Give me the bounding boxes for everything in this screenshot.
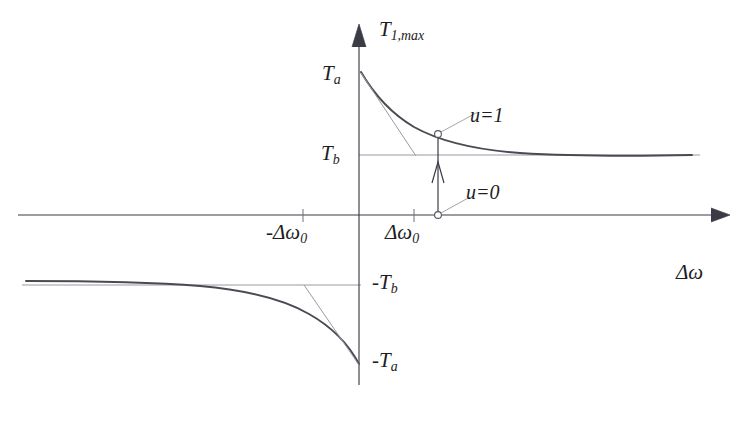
posdw0-base: Δω [385, 220, 412, 244]
x-tick-label-delta-omega-0: Δω0 [385, 222, 419, 246]
posdw0-sub: 0 [412, 231, 419, 246]
y-tick-label-neg-Ta: -Ta [372, 350, 398, 374]
Ta-base: T [322, 61, 334, 85]
negTb-base: T [379, 270, 391, 294]
x-tick-label-neg-delta-omega-0: -Δω0 [266, 222, 307, 246]
upper-tangent-line [361, 73, 416, 156]
y-tick-label-Tb: Tb [321, 143, 340, 167]
y-tick-label-Ta: Ta [322, 63, 341, 87]
x-axis-label-base: Δω [676, 260, 703, 284]
x-axis-label: Δω [676, 262, 703, 283]
annotation-u-equals-0: u=0 [466, 182, 500, 202]
upper-branch-curve [361, 72, 692, 156]
y-axis-label-sub: 1,max [391, 28, 425, 43]
lower-tangent-line [304, 285, 359, 365]
u1-point-marker [435, 131, 442, 138]
negTa-sub: a [391, 359, 398, 374]
Tb-sub: b [333, 152, 340, 167]
x-axis-arrowhead [711, 208, 730, 222]
negdw0-base: Δω [273, 220, 300, 244]
Tb-base: T [321, 141, 333, 165]
negdw0-prefix: - [266, 220, 273, 244]
Ta-sub: a [334, 72, 341, 87]
y-tick-label-neg-Tb: -Tb [372, 272, 398, 296]
y-axis-label: T1,max [379, 19, 424, 43]
annotation-u-equals-1: u=1 [470, 105, 504, 125]
negTa-prefix: - [372, 348, 379, 372]
negdw0-sub: 0 [300, 231, 307, 246]
lower-branch-curve [26, 281, 359, 364]
figure-canvas: T1,max Ta Tb -Tb -Ta -Δω0 Δω0 Δω u=1 u=0 [0, 0, 754, 424]
negTb-sub: b [391, 281, 398, 296]
y-axis-label-base: T [379, 17, 391, 41]
negTb-prefix: - [372, 270, 379, 294]
y-axis-arrowhead [352, 24, 366, 47]
negTa-base: T [379, 348, 391, 372]
u0-point-marker [435, 212, 442, 219]
